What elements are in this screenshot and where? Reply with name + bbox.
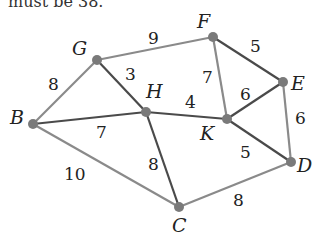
edge-g-h	[97, 60, 146, 112]
node-label-g: G	[72, 37, 87, 59]
node-label-h: H	[145, 80, 163, 102]
node-f	[208, 32, 218, 42]
labels-layer: 89374756658108GFHEBKDC	[9, 10, 312, 236]
edge-e-d	[283, 82, 291, 162]
node-label-k: K	[199, 122, 216, 144]
edge-weight-g-h: 3	[125, 64, 136, 84]
node-label-e: E	[290, 72, 305, 94]
edge-f-k	[213, 37, 227, 119]
node-b	[28, 119, 38, 129]
edge-weight-f-e: 5	[250, 36, 261, 56]
node-label-c: C	[172, 214, 187, 236]
nodes-layer	[28, 32, 296, 212]
node-k	[222, 114, 232, 124]
edge-weight-c-d: 8	[233, 190, 244, 210]
edge-weight-g-f: 9	[148, 28, 159, 48]
edge-weight-b-g: 8	[48, 74, 59, 94]
edge-weight-b-h: 7	[96, 122, 107, 142]
edge-weight-f-k: 7	[202, 67, 213, 87]
edge-weight-h-k: 4	[185, 92, 196, 112]
edge-b-h	[33, 112, 146, 124]
node-label-f: F	[196, 10, 211, 32]
edge-k-e	[227, 82, 283, 119]
node-e	[278, 77, 288, 87]
edge-h-k	[146, 112, 227, 119]
edge-k-d	[227, 119, 291, 162]
edge-weight-h-c: 8	[148, 154, 159, 174]
node-c	[174, 202, 184, 212]
node-label-d: D	[296, 154, 312, 176]
node-h	[141, 107, 151, 117]
edge-f-e	[213, 37, 283, 82]
edge-weight-k-e: 6	[240, 84, 251, 104]
edge-b-g	[33, 60, 97, 124]
edge-weight-b-c: 10	[64, 164, 86, 184]
node-g	[92, 55, 102, 65]
edge-weight-e-d: 6	[295, 108, 306, 128]
node-label-b: B	[9, 106, 24, 128]
edge-weight-k-d: 5	[240, 142, 251, 162]
node-d	[286, 157, 296, 167]
weighted-graph: 89374756658108GFHEBKDC	[0, 0, 325, 239]
